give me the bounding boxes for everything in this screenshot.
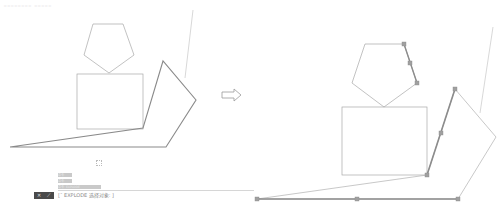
grip-handle [415,81,419,85]
grip-handle [408,61,412,65]
close-icon[interactable]: ✕ [37,192,41,199]
grip-handle [402,42,406,46]
right-arrow-icon [222,89,241,101]
before-drawing [10,10,196,147]
grip-handle [439,131,443,135]
after-drawing [255,27,496,201]
command-line-divider [58,190,254,191]
pentagon-shape [84,24,134,73]
history-line: 命令: [58,179,72,183]
construction-line [185,10,193,78]
rectangle-shape [342,107,427,175]
command-line-buttons: ✕ ⟋ [34,192,54,199]
cursor-icon [96,160,102,166]
command-history: 命令: 命令: 命令: EXPLODE [58,173,101,191]
grip-handle [355,197,359,201]
grip-handle [425,173,429,177]
construction-line [480,27,493,113]
rectangle-shape [77,74,143,129]
history-line: 命令: [58,173,72,177]
grip-handle [453,87,457,91]
command-prompt-input[interactable]: [¯ EXPLODE 选择对象: ] [58,192,114,199]
grip-handle [255,197,259,201]
grip-handle [456,197,460,201]
polyline-shape [257,89,496,199]
history-line: 命令: EXPLODE [58,185,101,189]
command-line[interactable]: ✕ ⟋ [¯ EXPLODE 选择对象: ] [34,192,220,199]
customize-icon[interactable]: ⟋ [47,192,51,199]
